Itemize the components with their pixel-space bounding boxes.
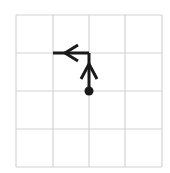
grid-path-diagram: [0, 0, 170, 173]
start-dot: [85, 87, 94, 96]
